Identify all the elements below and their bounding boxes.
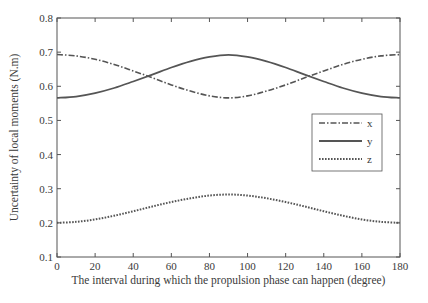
legend-label-z: z [367, 153, 372, 165]
x-tick-label: 60 [166, 260, 178, 272]
x-tick-label: 20 [90, 260, 102, 272]
x-tick-label: 40 [128, 260, 140, 272]
series-line-y [57, 55, 400, 98]
x-tick-label: 120 [277, 260, 294, 272]
x-tick-label: 180 [392, 260, 409, 272]
x-tick-label: 140 [316, 260, 333, 272]
y-tick-label: 0.7 [39, 46, 53, 58]
legend-label-x: x [367, 117, 373, 129]
series-line-z [57, 195, 400, 223]
x-axis-label: The interval during which the propulsion… [72, 274, 386, 287]
y-tick-label: 0.2 [39, 217, 53, 229]
line-chart: 0.10.20.30.40.50.60.70.8 020406080100120… [0, 0, 428, 303]
legend: xyz [312, 114, 382, 171]
x-tick-label: 80 [204, 260, 216, 272]
y-tick-label: 0.4 [39, 149, 53, 161]
legend-label-y: y [367, 135, 373, 147]
y-tick-label: 0.5 [39, 114, 53, 126]
x-tick-label: 0 [54, 260, 60, 272]
y-tick-label: 0.3 [39, 183, 53, 195]
y-axis-label: Uncertainty of local moments (N.m) [8, 54, 21, 222]
x-tick-label: 160 [354, 260, 371, 272]
series-line-x [57, 55, 400, 98]
y-tick-label: 0.6 [39, 80, 53, 92]
x-tick-label: 100 [239, 260, 256, 272]
y-tick-label: 0.8 [39, 12, 53, 24]
y-tick-label: 0.1 [39, 251, 53, 263]
